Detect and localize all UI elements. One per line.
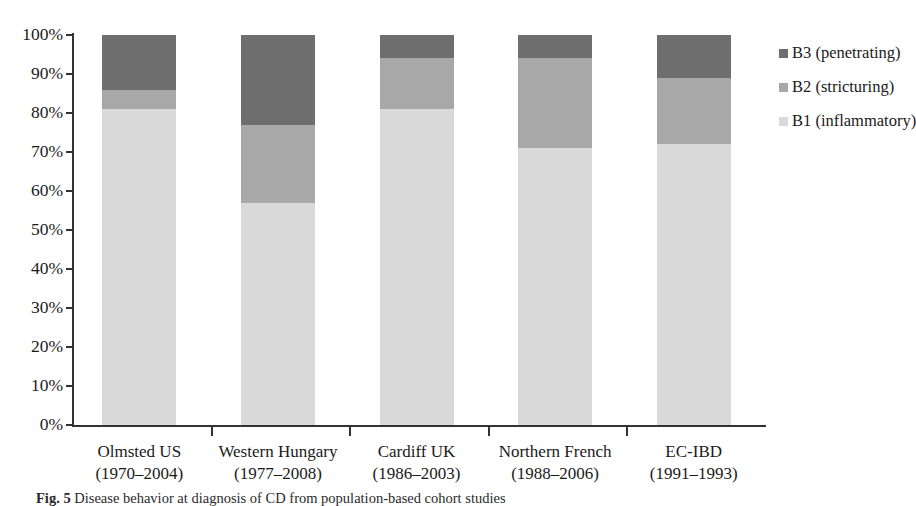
bar-segment[interactable] <box>518 35 592 58</box>
category-label-line1: EC-IBD <box>665 442 722 461</box>
chart-legend: B3 (penetrating)B2 (stricturing)B1 (infl… <box>779 36 904 138</box>
bar-segment[interactable] <box>380 35 454 58</box>
bar-segment[interactable] <box>102 35 176 90</box>
plot-area <box>72 35 765 425</box>
x-axis-category-label: Northern French(1988–2006) <box>480 441 630 486</box>
x-axis-category-label: Olmsted US(1970–2004) <box>64 441 214 486</box>
x-axis-tick-mark <box>626 427 628 436</box>
bar-segment[interactable] <box>102 90 176 110</box>
legend-item-label: B3 (penetrating) <box>792 45 901 62</box>
legend-item-label: B2 (stricturing) <box>792 79 894 96</box>
bar-column[interactable] <box>241 35 315 425</box>
category-label-line1: Olmsted US <box>98 442 182 461</box>
category-label-line2: (1991–1993) <box>619 463 769 485</box>
legend-item[interactable]: B2 (stricturing) <box>779 70 904 104</box>
category-label-line1: Western Hungary <box>218 442 337 461</box>
category-label-line2: (1986–2003) <box>342 463 492 485</box>
x-axis-category-label: Cardiff UK(1986–2003) <box>342 441 492 486</box>
bar-segment[interactable] <box>657 78 731 144</box>
bar-column[interactable] <box>102 35 176 425</box>
category-label-line2: (1977–2008) <box>203 463 353 485</box>
bar-segment[interactable] <box>380 109 454 425</box>
x-axis-tick-mark <box>211 427 213 436</box>
bar-segment[interactable] <box>241 35 315 125</box>
bar-segment[interactable] <box>102 109 176 425</box>
bar-segment[interactable] <box>380 58 454 109</box>
legend-item-label: B1 (inflammatory) <box>792 113 916 130</box>
y-axis-tick-label: 100% <box>22 26 72 44</box>
category-label-line1: Northern French <box>499 442 612 461</box>
legend-swatch-icon <box>779 49 788 58</box>
figure-caption: Fig. 5 Disease behavior at diagnosis of … <box>36 489 506 506</box>
legend-item[interactable]: B1 (inflammatory) <box>779 104 904 138</box>
x-axis-tick-mark <box>488 427 490 436</box>
bar-segment[interactable] <box>241 203 315 425</box>
legend-swatch-icon <box>779 83 788 92</box>
bar-segment[interactable] <box>657 144 731 425</box>
x-axis-tick-mark <box>349 427 351 436</box>
category-label-line2: (1988–2006) <box>480 463 630 485</box>
x-axis-category-label: Western Hungary(1977–2008) <box>203 441 353 486</box>
bar-segment[interactable] <box>518 58 592 148</box>
caption-prefix: Fig. 5 <box>36 490 71 506</box>
bar-segment[interactable] <box>518 148 592 425</box>
bar-column[interactable] <box>518 35 592 425</box>
category-label-line2: (1970–2004) <box>64 463 214 485</box>
legend-swatch-icon <box>779 117 788 126</box>
legend-item[interactable]: B3 (penetrating) <box>779 36 904 70</box>
bar-segment[interactable] <box>241 125 315 203</box>
bar-segment[interactable] <box>657 35 731 78</box>
x-axis-category-label: EC-IBD(1991–1993) <box>619 441 769 486</box>
bar-column[interactable] <box>657 35 731 425</box>
caption-text: Disease behavior at diagnosis of CD from… <box>74 490 505 506</box>
category-label-line1: Cardiff UK <box>378 442 456 461</box>
bar-column[interactable] <box>380 35 454 425</box>
x-axis-line <box>72 425 766 427</box>
